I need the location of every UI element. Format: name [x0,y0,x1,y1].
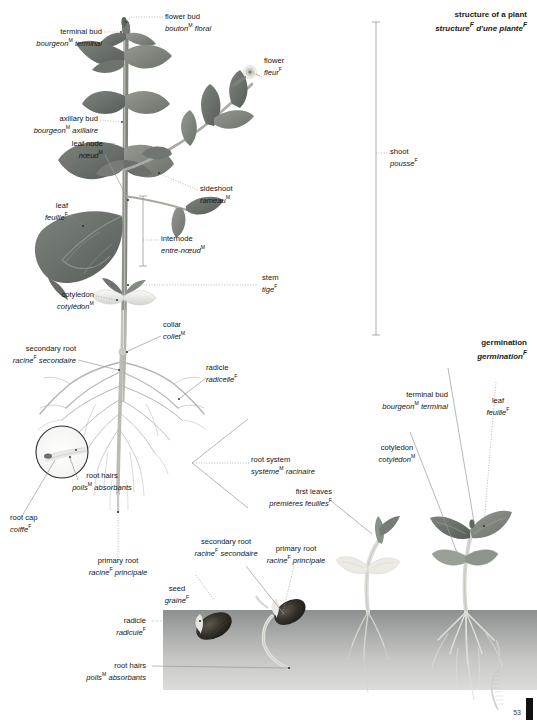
label-internode: internode entre-nœudM [161,234,205,255]
label-first-leaves: first leaves premières feuillesF [210,487,332,508]
label-radicle-fine: radicle radicelleF [206,363,238,384]
label-terminal-bud: terminal bud bourgeonM terminal [0,27,102,48]
label-root-hairs-seed: root hairs poilsM absorbants [42,661,146,682]
encyclopedia-page: structure of a plant structureF d'une pl… [0,0,537,724]
label-leaf: leaf feuilleF [0,201,68,222]
label-root-hairs: root hairs poilsM absorbants [46,471,158,492]
label-axillary-bud: axillary bud bourgeonM axillaire [0,114,98,135]
label-leaf-node: leaf node nœudM [0,139,103,160]
label-leaf-germination: leaf feuilleF [473,396,523,417]
label-primary-root: primary root racineF principale [62,556,174,577]
label-secondary-root: secondary root racineF secondaire [0,344,76,365]
label-primary-root-sprout: primary root racineF principale [242,544,350,565]
label-shoot: shoot pousseF [390,147,418,168]
label-collar: collar colletM [163,320,185,341]
label-sideshoot: sideshoot rameauM [200,184,233,205]
label-radicle-seed: radicle radiculeF [62,616,146,637]
page-edge-marker [526,698,533,720]
label-seed: seed graineF [150,584,204,605]
label-flower: flower fleurF [264,56,284,77]
page-number: 53 [513,709,521,716]
label-root-system: root system systèmeM racinaire [251,455,315,476]
label-stem: stem tigeF [262,273,278,294]
label-flower-bud: flower bud boutonM floral [165,12,211,33]
label-root-cap: root cap coiffeF [10,513,37,534]
label-terminal-bud-germination: terminal bud bourgeonM terminal [330,390,448,411]
label-cotyledon-germination: cotyledon cotylédonM [358,443,436,464]
label-cotyledon: cotyledon cotylédonM [0,290,94,311]
